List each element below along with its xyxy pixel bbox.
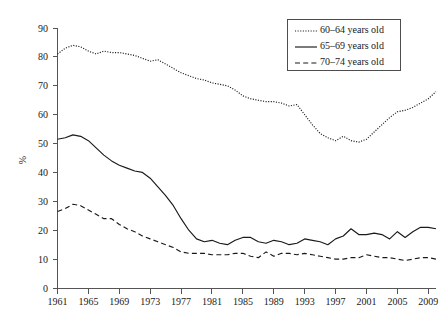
x-tick-label: 1969 [109,296,129,307]
chart-page: 0102030405060708090 19611965196919731977… [0,0,444,325]
x-tick-label: 1997 [326,296,346,307]
x-tick-label: 2001 [356,296,376,307]
y-tick-label: 70 [38,80,48,91]
y-tick-label: 10 [38,254,48,265]
y-tick-label: 60 [38,109,48,120]
x-tick-label: 1977 [171,296,191,307]
y-axis-title: % [17,156,28,164]
line-chart: 0102030405060708090 19611965196919731977… [0,0,444,325]
y-tick-label: 90 [38,23,48,34]
y-axis-title-label: % [17,156,28,164]
y-tick-label: 80 [38,51,48,62]
y-tick-label: 0 [43,283,48,294]
y-tick-label: 50 [38,138,48,149]
series-line-dashed [58,204,437,260]
x-tick-label: 2005 [387,296,407,307]
x-tick-label: 1973 [140,296,160,307]
y-tick-label: 20 [38,225,48,236]
legend-label: 65–69 years old [320,40,384,51]
y-tick-label: 30 [38,196,48,207]
y-tick-label: 40 [38,167,48,178]
y-axis-ticks: 0102030405060708090 [38,23,58,294]
x-tick-label: 2009 [418,296,438,307]
x-tick-label: 1965 [78,296,98,307]
x-tick-label: 1981 [202,296,222,307]
x-tick-label: 1989 [264,296,284,307]
legend-label: 70–74 years old [320,56,384,67]
x-axis-ticks: 1961196519691973197719811985198919931997… [48,289,439,308]
legend-label: 60–64 years old [320,24,384,35]
x-tick-label: 1993 [295,296,315,307]
series-line-solid [58,135,437,245]
x-tick-label: 1961 [48,296,68,307]
chart-legend[interactable]: 60–64 years old65–69 years old70–74 year… [288,20,401,71]
chart-series [58,45,437,260]
x-tick-label: 1985 [233,296,253,307]
